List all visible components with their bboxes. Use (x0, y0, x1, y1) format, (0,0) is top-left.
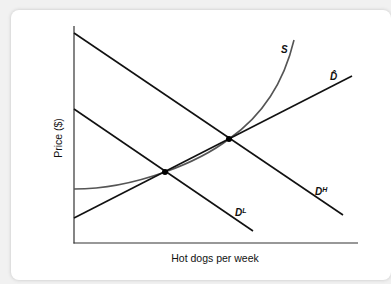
label-dl: DL (235, 207, 247, 218)
label-dhat: D̂ (330, 70, 337, 82)
label-dh: DH (315, 186, 328, 197)
demand-line-dhat (74, 76, 352, 218)
demand-line-dh (74, 33, 343, 215)
y-axis-title: Price ($) (52, 118, 64, 158)
label-dh-main: D (315, 186, 322, 197)
equilibrium-point-low (162, 169, 168, 175)
label-dl-main: D (235, 207, 242, 218)
equilibrium-point-high (226, 136, 232, 142)
label-s: S (281, 44, 288, 55)
label-dh-sup: H (322, 186, 328, 193)
x-axis-title: Hot dogs per week (171, 252, 259, 264)
label-dl-sup: L (242, 207, 246, 214)
supply-curve-s (74, 40, 294, 189)
